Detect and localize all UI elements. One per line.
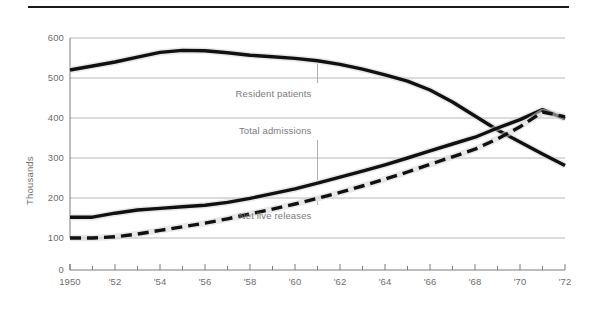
y-tick-label-400: 400 (26, 112, 64, 123)
y-tick-label-200: 200 (26, 192, 64, 203)
annotation-net-live-releases: Net live releases (0, 210, 312, 221)
x-tick-marks-group (70, 264, 565, 270)
y-tick-label-500: 500 (26, 72, 64, 83)
annotation-total-admissions: Total admissions (0, 125, 312, 136)
x-tick-label-1972: '72 (535, 276, 595, 287)
y-tick-label-100: 100 (26, 232, 64, 243)
line-chart-figure: Thousands 0100200300400500600 1950'52'54… (0, 0, 597, 310)
y-tick-label-600: 600 (26, 32, 64, 43)
y-tick-label-0: 0 (26, 264, 64, 275)
annotation-resident-patients: Resident patients (0, 88, 312, 99)
y-tick-label-300: 300 (26, 152, 64, 163)
plot-area (0, 0, 597, 310)
